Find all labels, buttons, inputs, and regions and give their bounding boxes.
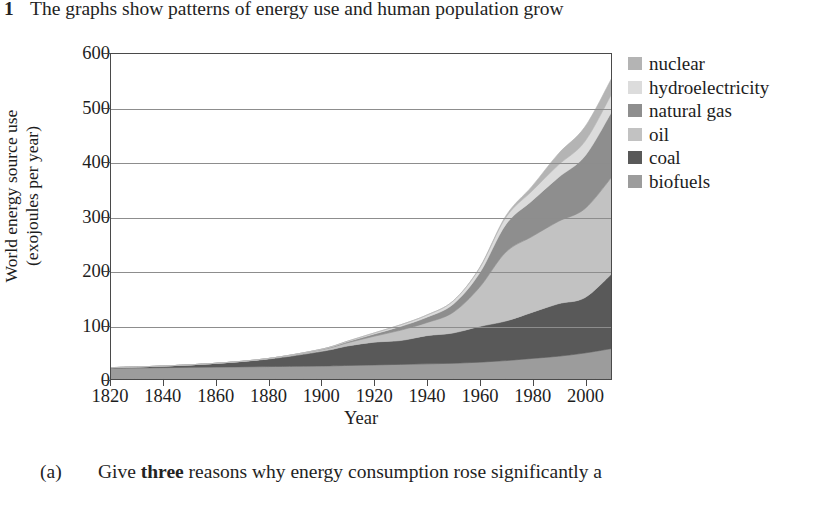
legend-item-biofuels: biofuels (628, 170, 816, 194)
x-tick-label-2000: 2000 (556, 385, 616, 407)
x-tick-label-1980: 1980 (503, 385, 563, 407)
energy-use-chart: World energy source use (exojoules per y… (0, 30, 816, 435)
y-tick-label-400: 400 (52, 153, 110, 171)
y-tick-label-200: 200 (52, 262, 110, 280)
legend-swatch-icon-hydroelectricity (628, 81, 642, 94)
question-stem-text: The graphs show patterns of energy use a… (30, 0, 564, 19)
y-axis: 0100200300400500600 (0, 53, 110, 380)
question-stem-top: 1The graphs show patterns of energy use … (0, 0, 816, 22)
y-tick-label-600: 600 (52, 44, 110, 62)
x-tick-label-1860: 1860 (186, 385, 246, 407)
y-tick-label-100: 100 (52, 317, 110, 335)
legend-item-natural-gas: natural gas (628, 99, 816, 123)
legend-swatch-icon-nuclear (628, 57, 642, 70)
stacked-area-series (111, 54, 611, 379)
legend-swatch-icon-oil (628, 128, 642, 141)
legend-swatch-icon-coal (628, 151, 642, 164)
legend-label: nuclear (649, 52, 705, 76)
legend-item-oil: oil (628, 123, 816, 147)
y-tick-label-500: 500 (52, 99, 110, 117)
legend-label: hydroelectricity (649, 76, 769, 100)
question-part-text-after: reasons why energy consumption rose sign… (184, 461, 602, 482)
x-tick-label-1960: 1960 (450, 385, 510, 407)
x-tick-label-1900: 1900 (291, 385, 351, 407)
legend-swatch-icon-biofuels (628, 175, 642, 188)
legend-item-coal: coal (628, 146, 816, 170)
question-part-text-before: Give (98, 461, 141, 482)
legend-swatch-icon-natural-gas (628, 104, 642, 117)
question-part-label: (a) (0, 458, 98, 486)
x-axis-title: Year (110, 407, 612, 429)
legend-item-nuclear: nuclear (628, 52, 816, 76)
x-tick-label-1840: 1840 (133, 385, 193, 407)
legend-item-hydroelectricity: hydroelectricity (628, 76, 816, 100)
question-number: 1 (0, 0, 30, 22)
question-part-emphasis: three (141, 461, 184, 482)
x-tick-label-1940: 1940 (397, 385, 457, 407)
question-part-a: (a)Give three reasons why energy consump… (0, 458, 816, 488)
x-tick-label-1820: 1820 (80, 385, 140, 407)
plot-area (110, 53, 612, 380)
chart-legend: nuclearhydroelectricitynatural gasoilcoa… (628, 52, 816, 193)
legend-label: biofuels (649, 170, 710, 194)
y-tick-label-300: 300 (52, 208, 110, 226)
x-tick-label-1920: 1920 (344, 385, 404, 407)
x-tick-label-1880: 1880 (239, 385, 299, 407)
legend-label: coal (649, 146, 681, 170)
legend-label: natural gas (649, 99, 732, 123)
legend-label: oil (649, 123, 669, 147)
